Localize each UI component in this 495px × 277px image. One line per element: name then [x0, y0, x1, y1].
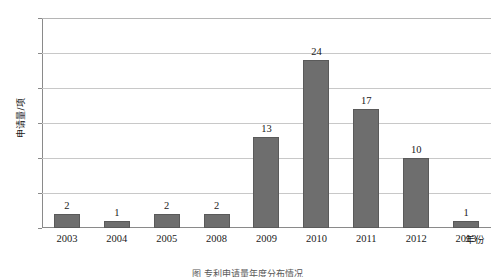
x-axis-tick-label: 2011 — [356, 234, 377, 245]
x-axis-tick-label: 2010 — [306, 234, 327, 245]
bar-slot: 24 — [291, 18, 341, 228]
bar-slot: 2 — [42, 18, 92, 228]
bar-slot: 2 — [192, 18, 242, 228]
bar — [204, 214, 230, 228]
bar — [154, 214, 180, 228]
bar-value-label: 2 — [164, 201, 169, 212]
bar-series: 2122132417101 — [42, 18, 491, 228]
bar-slot: 1 — [441, 18, 491, 228]
x-axis-title: 年份 — [465, 232, 485, 246]
bar — [54, 214, 80, 228]
bar-slot: 13 — [242, 18, 292, 228]
x-axis-tick-label: 2009 — [256, 234, 277, 245]
bar-slot: 17 — [341, 18, 391, 228]
bar — [303, 60, 329, 228]
bar-slot: 2 — [142, 18, 192, 228]
bar-slot: 1 — [92, 18, 142, 228]
x-axis-tick-label: 2008 — [206, 234, 227, 245]
x-axis-tick-label: 2004 — [106, 234, 127, 245]
plot-area: 2122132417101 — [42, 18, 491, 228]
bar-slot: 10 — [391, 18, 441, 228]
bar-value-label: 10 — [411, 145, 422, 156]
x-axis-tick-label: 2005 — [156, 234, 177, 245]
bar-value-label: 1 — [463, 208, 468, 219]
y-axis-title: 申请量/项 — [14, 98, 27, 137]
bar — [104, 221, 130, 228]
bar-value-label: 1 — [114, 208, 119, 219]
bar-value-label: 2 — [214, 201, 219, 212]
x-axis-tick-label: 2012 — [406, 234, 427, 245]
bar-value-label: 17 — [361, 96, 372, 107]
bar-value-label: 24 — [311, 47, 322, 58]
x-axis-tick-label: 2003 — [56, 234, 77, 245]
bar-value-label: 13 — [261, 124, 272, 135]
bar — [353, 109, 379, 228]
y-tick-mark — [38, 228, 42, 229]
figure-caption: 图 专利申请量年度分布情况 — [0, 267, 495, 277]
bar — [403, 158, 429, 228]
bar — [253, 137, 279, 228]
bar — [453, 221, 479, 228]
bar-value-label: 2 — [64, 201, 69, 212]
